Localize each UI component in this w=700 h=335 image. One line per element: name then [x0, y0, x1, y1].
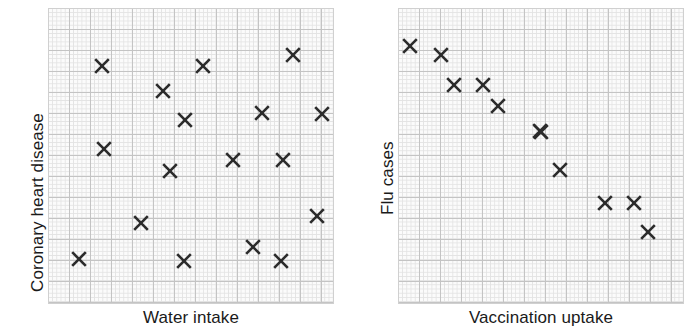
data-point-marker	[273, 150, 293, 170]
data-point-marker	[638, 222, 658, 242]
data-point-marker	[131, 213, 151, 233]
data-point-marker	[243, 237, 263, 257]
data-point-marker	[444, 75, 464, 95]
data-point-marker	[94, 139, 114, 159]
data-point-marker	[531, 122, 551, 142]
data-point-marker	[307, 206, 327, 226]
x-axis-label-vaccination-uptake: Vaccination uptake	[398, 308, 684, 328]
scatter-plot-figure: Water intake Coronary heart disease Vacc…	[0, 0, 700, 335]
data-point-marker	[160, 161, 180, 181]
data-point-marker	[400, 36, 420, 56]
data-point-marker	[595, 193, 615, 213]
data-point-marker	[175, 110, 195, 130]
x-axis-label-water-intake: Water intake	[48, 308, 334, 328]
data-point-marker	[283, 45, 303, 65]
data-point-marker	[312, 104, 332, 124]
data-point-marker	[153, 81, 173, 101]
plot-area-flu-cases	[398, 8, 684, 304]
data-point-marker	[92, 56, 112, 76]
data-point-marker	[488, 96, 508, 116]
plot-area-coronary-heart-disease	[48, 8, 334, 304]
data-point-marker	[271, 251, 291, 271]
y-axis-label-coronary-heart-disease: Coronary heart disease	[28, 113, 48, 292]
data-point-marker	[431, 45, 451, 65]
data-point-marker	[174, 251, 194, 271]
data-point-marker	[550, 160, 570, 180]
data-point-marker	[252, 103, 272, 123]
data-point-marker	[69, 249, 89, 269]
data-point-marker	[624, 193, 644, 213]
data-point-marker	[223, 150, 243, 170]
data-point-marker	[193, 56, 213, 76]
y-axis-label-flu-cases: Flu cases	[378, 141, 398, 215]
data-point-marker	[473, 75, 493, 95]
